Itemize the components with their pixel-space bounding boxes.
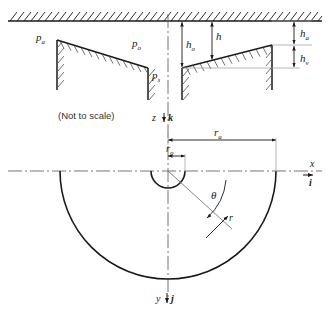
axis-i-label: i: [309, 177, 312, 188]
axis-x-label: x: [309, 158, 315, 169]
label-ps: ps: [151, 69, 161, 84]
label-ho: ho: [186, 38, 196, 53]
label-ro: ro: [166, 143, 174, 157]
section-labels: pa po ps ho h ha hv (Not to scale): [35, 27, 310, 121]
label-theta: θ: [211, 189, 217, 201]
axis-z-label: z: [151, 112, 156, 123]
dimension-helper-lines: [182, 21, 312, 68]
label-ha: ha: [300, 27, 310, 42]
label-ra: ra: [214, 126, 222, 141]
axis-y-group: y j: [155, 293, 174, 304]
section-right-body: [182, 45, 272, 100]
label-r: r: [229, 212, 233, 223]
radius-o-dimension: ro: [166, 143, 185, 172]
ground-boundary: [8, 12, 322, 21]
radius-a-dimension: ra: [168, 126, 276, 172]
label-po: po: [131, 37, 142, 52]
axis-j-label: j: [169, 293, 174, 304]
axis-x-group: x i: [303, 158, 315, 188]
label-hv: hv: [300, 52, 310, 67]
axis-y-label: y: [155, 293, 161, 304]
axis-z-group: z k: [151, 112, 173, 123]
label-pa: pa: [35, 31, 46, 46]
engineering-diagram: pa po ps ho h ha hv (Not to scale) z k: [0, 0, 330, 310]
label-h: h: [216, 30, 222, 42]
axis-k-label: k: [168, 112, 173, 123]
radial-vector-group: θ r: [168, 171, 233, 238]
not-to-scale-note: (Not to scale): [58, 110, 115, 121]
